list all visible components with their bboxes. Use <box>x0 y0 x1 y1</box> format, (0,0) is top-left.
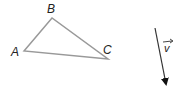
vertex-label-c: C <box>103 43 112 57</box>
vector-label-v: v <box>164 42 171 54</box>
vertex-label-b: B <box>47 2 55 16</box>
vector-arrow-icon <box>155 28 166 84</box>
triangle-abc <box>24 18 108 59</box>
vertex-label-a: A <box>10 45 19 59</box>
diagram-canvas: A B C v <box>0 0 185 90</box>
